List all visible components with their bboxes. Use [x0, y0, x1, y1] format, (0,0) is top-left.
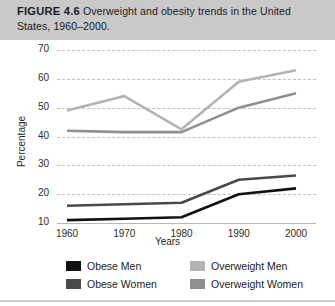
legend-entry-overweight-men: Overweight Men: [190, 258, 303, 274]
legend-label: Obese Women: [87, 278, 157, 290]
legend-entry-obese-men: Obese Men: [66, 258, 157, 274]
figure-caption: FIGURE 4.6 Overweight and obesity trends…: [17, 4, 322, 33]
caption-band: FIGURE 4.6 Overweight and obesity trends…: [0, 0, 335, 40]
legend-swatch-overweight-men: [190, 261, 205, 271]
legend-entry-obese-women: Obese Women: [66, 276, 157, 292]
figure-number: FIGURE 4.6: [17, 5, 80, 17]
legend-label: Overweight Women: [211, 278, 303, 290]
legend-swatch-obese-men: [66, 261, 81, 271]
series-line-overweight-men: [67, 70, 296, 129]
legend-column-left: Obese MenObese Women: [66, 258, 157, 294]
chart-plot-area: Percentage Years 10203040506070 19601970…: [0, 40, 335, 255]
series-lines: [0, 40, 335, 255]
bottom-divider: [0, 300, 335, 302]
legend-label: Overweight Men: [211, 260, 287, 272]
chart-legend: Obese MenObese Women Overweight MenOverw…: [0, 258, 335, 298]
legend-column-right: Overweight MenOverweight Women: [190, 258, 303, 294]
legend-swatch-overweight-women: [190, 279, 205, 289]
legend-label: Obese Men: [87, 260, 141, 272]
legend-entry-overweight-women: Overweight Women: [190, 276, 303, 292]
legend-swatch-obese-women: [66, 279, 81, 289]
series-line-overweight-women: [67, 93, 296, 132]
figure-container: FIGURE 4.6 Overweight and obesity trends…: [0, 0, 335, 306]
